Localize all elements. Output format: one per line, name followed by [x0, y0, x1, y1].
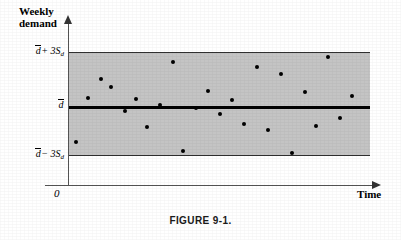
ucl-dbar: d — [35, 45, 41, 56]
data-point — [123, 109, 127, 113]
ucl-subscript: d — [61, 50, 65, 58]
data-point — [255, 65, 259, 69]
data-point — [86, 96, 90, 100]
figure-caption: FIGURE 9-1. — [0, 215, 401, 226]
data-point — [326, 55, 330, 59]
ytick-label-ucl: d+ 3Sd — [18, 45, 64, 58]
lcl-dbar: d — [35, 148, 41, 159]
y-axis-title: Weekly demand — [19, 5, 57, 29]
data-point — [314, 124, 318, 128]
data-point — [279, 72, 283, 76]
data-point — [194, 106, 198, 110]
data-point — [181, 149, 185, 153]
ucl-expr: + 3S — [41, 45, 60, 56]
data-point — [303, 90, 307, 94]
x-axis-title: Time — [357, 188, 381, 200]
data-point — [99, 77, 103, 81]
control-band-shading — [69, 52, 370, 155]
data-point — [74, 140, 78, 144]
data-point — [242, 122, 246, 126]
x-axis-line — [45, 185, 375, 186]
center-dbar: d — [58, 99, 64, 110]
y-axis-title-line2: demand — [19, 17, 57, 29]
lcl-subscript: d — [61, 153, 65, 161]
lower-control-limit-line — [69, 155, 370, 156]
data-point — [171, 60, 175, 64]
y-axis-line — [68, 22, 69, 186]
ytick-label-center: d — [18, 99, 64, 110]
control-chart-figure: Weekly demand Time d+ 3Sd d d− 3Sd 0 FIG… — [0, 0, 401, 240]
center-line — [69, 106, 370, 109]
data-point — [266, 128, 270, 132]
data-point — [206, 89, 210, 93]
plot-area: Weekly demand Time d+ 3Sd d d− 3Sd 0 — [0, 0, 401, 240]
data-point — [218, 112, 222, 116]
data-point — [158, 103, 162, 107]
upper-control-limit-line — [69, 52, 370, 53]
data-point — [134, 97, 138, 101]
y-axis-arrowhead-icon — [64, 15, 72, 24]
data-point — [350, 94, 354, 98]
data-point — [145, 125, 149, 129]
origin-label: 0 — [54, 187, 60, 199]
data-point — [109, 85, 113, 89]
data-point — [290, 151, 294, 155]
lcl-expr: − 3S — [41, 148, 60, 159]
data-point — [230, 98, 234, 102]
y-axis-title-line1: Weekly — [19, 5, 57, 17]
ytick-label-lcl: d− 3Sd — [18, 148, 64, 161]
data-point — [338, 116, 342, 120]
